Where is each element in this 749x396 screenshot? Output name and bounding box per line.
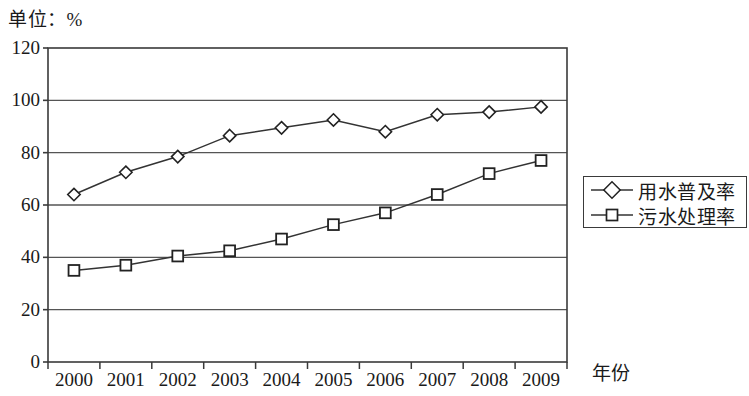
x-axis-tick-label: 2002 <box>152 370 204 389</box>
x-axis-title: 年份 <box>592 358 630 385</box>
y-axis-tick-label: 100 <box>0 90 40 109</box>
x-axis-tick-label: 2004 <box>256 370 308 389</box>
legend-item-1: 污水处理率 <box>589 202 736 228</box>
y-axis-tick-label: 0 <box>0 352 40 371</box>
y-axis-tick-label: 20 <box>0 300 40 319</box>
y-axis-tick-label: 120 <box>0 38 40 57</box>
y-axis-tick-label: 80 <box>0 143 40 162</box>
legend-label-0: 用水普及率 <box>638 177 736 204</box>
x-axis-tick-label: 2006 <box>359 370 411 389</box>
y-axis-tick-label: 40 <box>0 247 40 266</box>
x-axis-tick-label: 2003 <box>204 370 256 389</box>
x-axis-tick-label: 2000 <box>48 370 100 389</box>
gridlines <box>48 100 567 309</box>
x-axis-tick-label: 2001 <box>100 370 152 389</box>
legend-item-0: 用水普及率 <box>589 177 736 203</box>
diamond-marker-icon <box>589 180 635 200</box>
chart-container: 单位：% 020406080100120 2000200120022003200… <box>0 0 749 396</box>
x-axis-tick-label: 2005 <box>307 370 359 389</box>
x-axis-ticks <box>48 362 567 369</box>
x-axis-tick-label: 2009 <box>515 370 567 389</box>
x-axis-tick-label: 2007 <box>411 370 463 389</box>
data-series-layer <box>68 101 548 276</box>
x-axis-tick-label: 2008 <box>463 370 515 389</box>
square-marker-icon <box>589 205 635 225</box>
legend: 用水普及率 污水处理率 <box>583 176 747 228</box>
y-axis-tick-label: 60 <box>0 195 40 214</box>
legend-label-1: 污水处理率 <box>638 202 736 229</box>
